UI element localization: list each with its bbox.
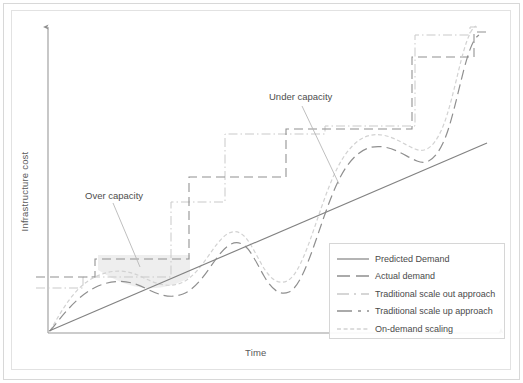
legend-item-traditional-scale-out: Traditional scale out approach bbox=[330, 285, 504, 303]
annotation-over-capacity: Over capacity bbox=[85, 190, 143, 201]
legend-label-on-demand-scaling: On-demand scaling bbox=[375, 324, 453, 334]
chart-legend: Predicted Demand Actual demand Tradition… bbox=[329, 243, 505, 339]
legend-label-traditional-scale-out: Traditional scale out approach bbox=[375, 289, 495, 299]
solid-line-swatch bbox=[336, 254, 370, 264]
dash-dot-line-swatch bbox=[336, 289, 370, 299]
legend-label-actual-demand: Actual demand bbox=[375, 271, 435, 281]
long-dash-line-swatch bbox=[336, 271, 370, 281]
legend-label-predicted-demand: Predicted Demand bbox=[375, 254, 450, 264]
chart-figure: Infrastructure cost Time Over capacity U… bbox=[0, 0, 523, 383]
legend-item-traditional-scale-up: Traditional scale up approach bbox=[330, 303, 504, 321]
legend-item-predicted-demand: Predicted Demand bbox=[330, 250, 504, 268]
x-axis-title: Time bbox=[245, 347, 267, 358]
legend-item-actual-demand: Actual demand bbox=[330, 268, 504, 286]
fine-dash-line-swatch bbox=[336, 324, 370, 334]
dash-line-swatch bbox=[336, 306, 370, 316]
y-axis-title: Infrastructure cost bbox=[19, 137, 30, 247]
under-capacity-leader-line bbox=[302, 106, 339, 184]
annotation-under-capacity: Under capacity bbox=[269, 91, 332, 102]
legend-label-traditional-scale-up: Traditional scale up approach bbox=[375, 306, 493, 316]
legend-item-on-demand-scaling: On-demand scaling bbox=[330, 320, 504, 338]
